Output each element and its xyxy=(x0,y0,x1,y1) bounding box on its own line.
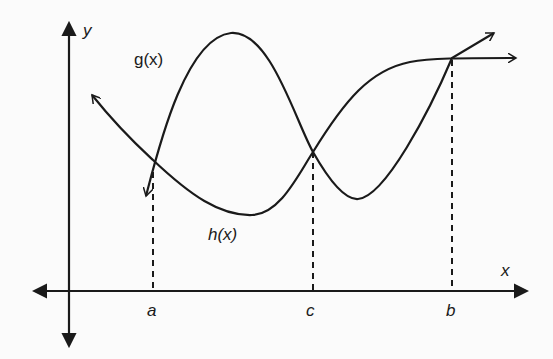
x-marker-b: b xyxy=(446,302,455,319)
x-marker-c: c xyxy=(306,302,315,319)
x-axis-label: x xyxy=(501,262,510,279)
g-label-text: g(x) xyxy=(134,50,163,69)
y-axis-label: y xyxy=(83,22,92,39)
h-label-text: h(x) xyxy=(208,225,237,244)
h-curve xyxy=(92,58,516,215)
x-marker-a: a xyxy=(147,302,156,319)
h-function-label: h(x) xyxy=(208,226,237,243)
graph-canvas: y x g(x) h(x) a c b xyxy=(0,0,553,359)
graph-svg xyxy=(0,0,553,359)
g-function-label: g(x) xyxy=(134,51,163,68)
